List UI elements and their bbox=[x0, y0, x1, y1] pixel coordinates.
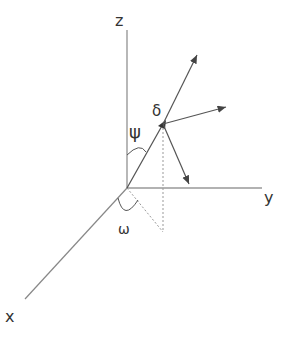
delta-label: δ bbox=[152, 102, 161, 120]
psi-arc bbox=[127, 148, 146, 155]
down-arrow bbox=[163, 124, 189, 184]
coordinate-diagram: z y x ψ ω δ bbox=[0, 0, 304, 338]
diagram-svg: z y x ψ ω δ bbox=[0, 0, 304, 338]
x-axis bbox=[25, 188, 127, 299]
z-axis-label: z bbox=[115, 11, 123, 30]
projection-ground bbox=[127, 188, 163, 232]
radial-arrow bbox=[163, 55, 197, 124]
omega-arc bbox=[118, 198, 138, 211]
x-axis-label: x bbox=[5, 307, 14, 326]
psi-label: ψ bbox=[129, 121, 141, 142]
y-axis-label: y bbox=[264, 188, 273, 207]
omega-label: ω bbox=[118, 221, 130, 237]
tangent-arrow bbox=[163, 107, 226, 124]
